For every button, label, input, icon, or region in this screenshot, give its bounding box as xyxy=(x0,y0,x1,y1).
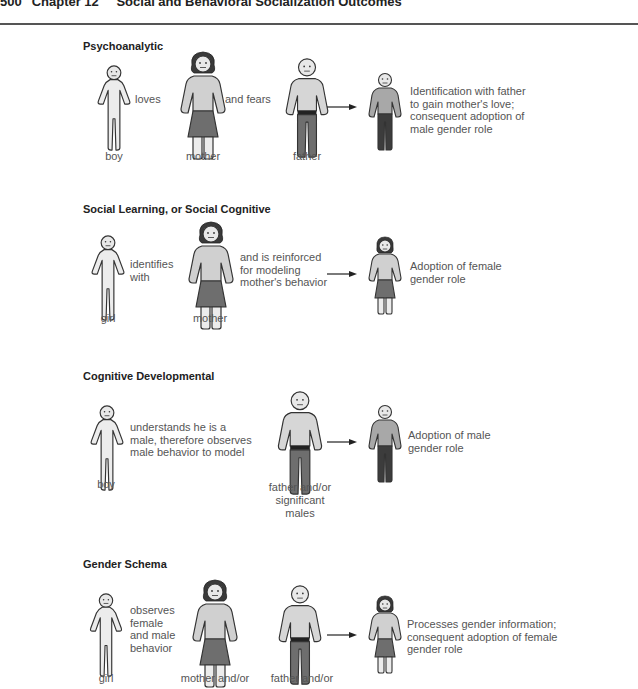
figure-label: girl xyxy=(88,312,128,325)
header-rule xyxy=(0,23,638,25)
boy-outcome-figure-icon xyxy=(367,72,403,152)
running-head: 500 Chapter 12 Social and Behavioral Soc… xyxy=(0,0,402,9)
section-title: Cognitive Developmental xyxy=(83,370,214,382)
girl-figure-icon xyxy=(88,592,124,678)
figure-label: father and/or significant males xyxy=(260,481,340,520)
outcome-text: Identification with father to gain mothe… xyxy=(410,85,526,135)
connector-text: identifies with xyxy=(130,258,173,283)
outcome-text: Processes gender information; consequent… xyxy=(407,618,557,656)
arrow-right-icon xyxy=(327,97,357,115)
page-number: 500 xyxy=(0,0,28,9)
section-title: Gender Schema xyxy=(83,558,167,570)
connector-text: and fears xyxy=(225,93,271,106)
section-title: Social Learning, or Social Cognitive xyxy=(83,203,271,215)
girl-figure-icon xyxy=(90,234,126,322)
chapter-title: Social and Behavioral Socialization Outc… xyxy=(116,0,401,9)
figure-label: mother xyxy=(180,312,240,325)
father-figure-icon xyxy=(282,56,332,160)
chapter-label: Chapter 12 xyxy=(32,0,99,9)
boy-outcome-figure-icon xyxy=(367,404,403,484)
outcome-text: Adoption of male gender role xyxy=(408,429,491,454)
connector-text: observes female and male behavior xyxy=(130,604,175,654)
figure-label: girl xyxy=(86,672,126,685)
girl-outcome-figure-icon xyxy=(367,595,403,675)
figure-label: father xyxy=(277,150,337,163)
figure-label: boy xyxy=(86,478,126,491)
connector-text: understands he is a male, therefore obse… xyxy=(130,421,252,459)
mother-figure-icon xyxy=(178,51,228,161)
boy-figure-icon xyxy=(96,64,132,152)
figure-label: mother xyxy=(173,150,233,163)
connector-text: loves xyxy=(135,93,161,106)
figure-label-text: father and/or significant males xyxy=(269,481,331,519)
arrow-right-icon xyxy=(327,625,357,643)
arrow-right-icon xyxy=(327,264,357,282)
girl-outcome-figure-icon xyxy=(367,236,403,316)
outcome-text: Adoption of female gender role xyxy=(410,260,502,285)
connector-text: and is reinforced for modeling mother's … xyxy=(240,251,327,289)
figure-label: father and/or xyxy=(257,672,347,685)
arrow-right-icon xyxy=(327,432,357,450)
figure-label: boy xyxy=(96,150,132,163)
section-title: Psychoanalytic xyxy=(83,40,163,52)
figure-label: mother and/or xyxy=(170,672,260,685)
